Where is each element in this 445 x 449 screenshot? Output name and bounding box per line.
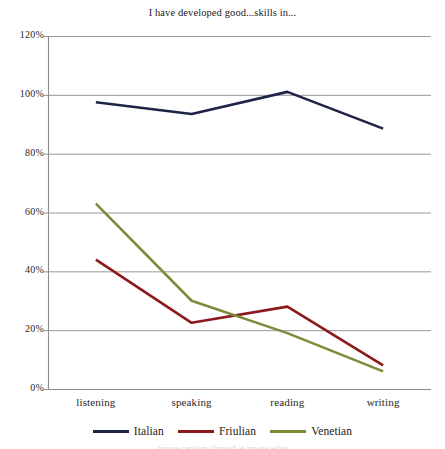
legend-swatch-icon [178,430,214,433]
y-axis-tick-label: 20% [0,323,44,334]
y-axis-tick-label: 40% [0,264,44,275]
legend-item-venetian[interactable]: Venetian [270,425,352,437]
y-axis-tick-label: 0% [0,382,44,393]
x-axis-tick-label-reading: reading [270,396,304,408]
y-axis-tick-labels: 0%20%40%60%80%100%120% [0,0,44,449]
y-axis-tick-label: 80% [0,147,44,158]
legend-item-friulian[interactable]: Friulian [178,425,256,437]
line-chart-plot-area [0,0,445,449]
x-axis-tick-label-listening: listening [76,396,115,408]
series-lines [96,92,383,371]
legend-label: Friulian [219,425,256,437]
figure-caption: figure caption clipped at image edge [0,443,445,449]
legend-label: Italian [134,425,164,437]
y-axis-tick-label: 120% [0,29,44,40]
series-line-italian [96,92,383,129]
axis-lines [44,36,49,390]
y-axis-tick-label: 100% [0,88,44,99]
x-axis-tick-labels: listeningspeakingreadingwriting [0,396,445,416]
y-axis-tick-label: 60% [0,206,44,217]
legend-swatch-icon [270,430,306,433]
chart-figure: I have developed good...skills in... 0%2… [0,0,445,449]
legend-item-italian[interactable]: Italian [93,425,164,437]
legend-label: Venetian [311,425,352,437]
chart-legend: ItalianFriulianVenetian [0,425,445,437]
legend-swatch-icon [93,430,129,433]
x-axis-tick-label-writing: writing [367,396,400,408]
x-axis-tick-label-speaking: speaking [171,396,211,408]
series-line-friulian [96,260,383,366]
